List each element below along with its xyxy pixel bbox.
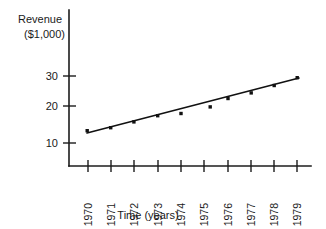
x-tick-label-1975: 1975	[198, 203, 210, 227]
data-point	[209, 105, 212, 108]
data-point	[86, 129, 89, 132]
y-axis-title-line2: ($1,000)	[24, 28, 65, 40]
y-tick-label-30: 30	[46, 70, 58, 82]
y-axis-title-line1: Revenue	[18, 13, 62, 25]
x-axis-tick-labels: 1970 1971 1972 1973 1974 1975 1976 1977 …	[82, 203, 303, 227]
x-tick-label-1970: 1970	[82, 203, 94, 227]
x-tick-label-1978: 1978	[268, 203, 280, 227]
data-points	[86, 76, 299, 132]
data-point	[109, 126, 112, 129]
data-point	[226, 97, 229, 100]
x-tick-label-1971: 1971	[105, 203, 117, 227]
trend-line	[87, 78, 299, 133]
revenue-time-chart: Revenue ($1,000) 30 20 10	[0, 0, 326, 229]
data-point	[156, 114, 159, 117]
data-point	[250, 91, 253, 94]
y-axis-ticks: 30 20 10	[46, 70, 76, 149]
data-point	[179, 112, 182, 115]
y-tick-label-20: 20	[46, 100, 58, 112]
x-tick-label-1977: 1977	[245, 203, 257, 227]
data-point	[132, 120, 135, 123]
x-tick-label-1979: 1979	[291, 203, 303, 227]
x-tick-label-1976: 1976	[222, 203, 234, 227]
y-tick-label-10: 10	[46, 137, 58, 149]
x-axis-title: Time (years)	[117, 209, 178, 221]
data-point	[273, 84, 276, 87]
data-point	[296, 76, 299, 79]
chart-canvas: Revenue ($1,000) 30 20 10	[0, 0, 326, 229]
